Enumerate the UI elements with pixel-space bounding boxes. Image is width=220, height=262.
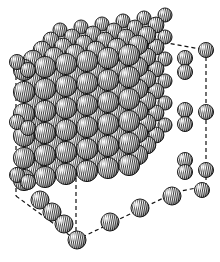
atom-sphere	[163, 187, 181, 205]
atom-sphere	[13, 147, 34, 168]
atom-sphere	[76, 94, 97, 115]
atom-sphere	[97, 69, 118, 90]
atom-sphere	[34, 56, 55, 77]
atom-sphere	[55, 215, 73, 233]
atom-sphere	[76, 160, 97, 181]
atom-sphere	[55, 75, 76, 96]
atom-sphere	[131, 199, 149, 217]
atom-sphere	[118, 154, 139, 175]
atom-sphere	[178, 65, 193, 80]
atom-sphere	[118, 66, 139, 87]
atom-sphere	[97, 113, 118, 134]
atom-sphere	[195, 183, 210, 198]
atom-sphere	[97, 157, 118, 178]
atom-sphere	[55, 141, 76, 162]
atom-sphere	[118, 132, 139, 153]
atom-sphere	[118, 110, 139, 131]
atom-sphere	[76, 72, 97, 93]
atom-sphere	[55, 97, 76, 118]
atom-sphere	[199, 163, 214, 178]
atom-sphere	[68, 231, 86, 249]
atom-sphere	[178, 51, 193, 66]
atom-sphere	[55, 119, 76, 140]
atom-sphere	[178, 103, 193, 118]
atom-sphere	[76, 116, 97, 137]
atom-sphere	[34, 166, 55, 187]
atom-sphere	[118, 44, 139, 65]
atom-sphere	[101, 213, 119, 231]
atom-sphere	[55, 163, 76, 184]
atom-sphere	[21, 63, 36, 78]
atom-sphere	[97, 135, 118, 156]
atom-sphere	[55, 53, 76, 74]
lattice-figure	[0, 0, 220, 262]
atom-sphere	[34, 78, 55, 99]
atom-sphere	[76, 138, 97, 159]
atom-sphere	[178, 117, 193, 132]
atom-sphere	[21, 175, 36, 190]
atom-sphere	[34, 100, 55, 121]
atom-sphere	[118, 88, 139, 109]
atom-sphere	[199, 105, 214, 120]
atom-sphere	[178, 165, 193, 180]
atom-sphere	[97, 47, 118, 68]
atom-sphere	[34, 144, 55, 165]
atom-sphere	[13, 81, 34, 102]
atom-sphere	[21, 121, 36, 136]
atom-sphere	[199, 43, 214, 58]
atom-sphere	[76, 50, 97, 71]
atom-spheres	[10, 8, 214, 249]
atom-sphere	[34, 122, 55, 143]
atom-sphere	[97, 91, 118, 112]
crystal-lattice-diagram	[0, 0, 220, 262]
